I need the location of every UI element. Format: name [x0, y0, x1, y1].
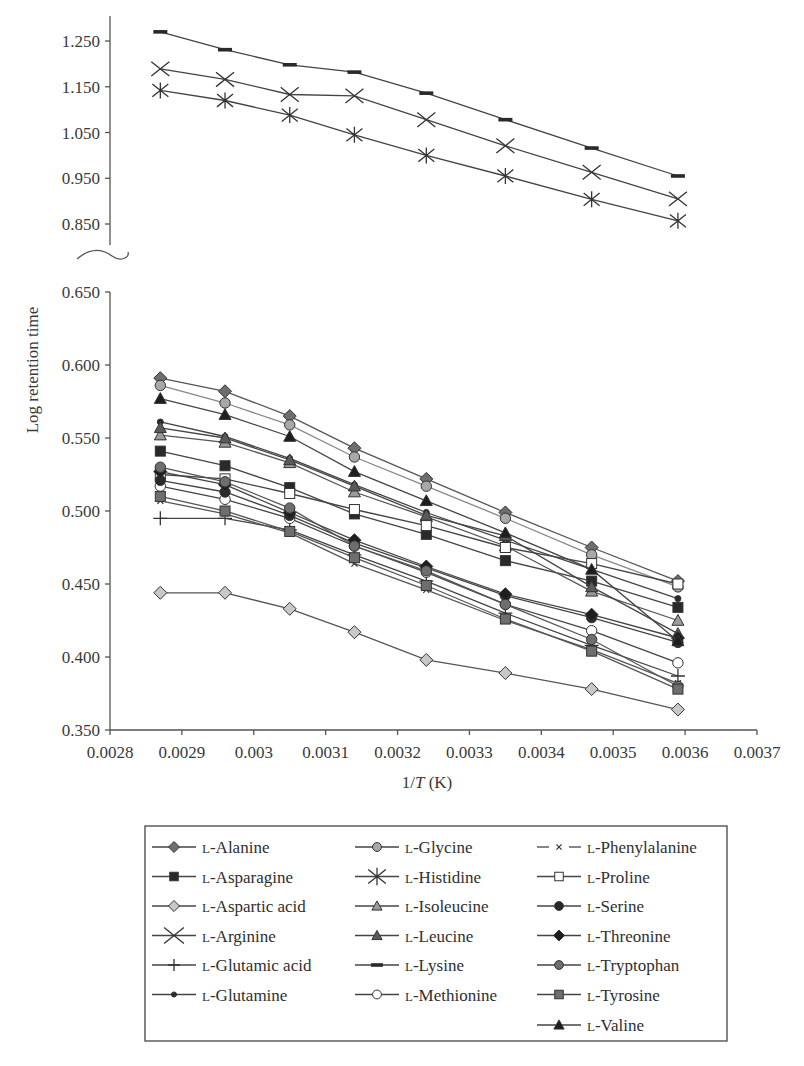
- x-tick-label: 0.0037: [734, 743, 781, 762]
- dash-marker-icon: [347, 70, 361, 74]
- square-marker-icon: [155, 491, 165, 501]
- circle-marker-icon: [373, 990, 382, 999]
- square-marker-icon: [285, 488, 295, 498]
- square-marker-icon: [673, 602, 683, 612]
- circle-marker-icon: [500, 513, 510, 523]
- triangle-marker-icon: [284, 454, 296, 465]
- upper-y-tick-label: 0.950: [62, 169, 100, 188]
- y-axis-title: Log retention time: [23, 307, 42, 434]
- triangle-marker-icon: [672, 615, 684, 626]
- dash-marker-icon: [498, 118, 512, 122]
- series-line: [160, 496, 678, 689]
- x-marker-icon: [216, 72, 234, 86]
- diamond-marker-icon: [348, 626, 361, 639]
- diamond-marker-icon: [420, 653, 433, 666]
- triangle-marker-icon: [348, 480, 360, 491]
- circle-marker-icon: [421, 566, 431, 576]
- circle-marker-icon: [555, 961, 564, 970]
- triangle-marker-icon: [348, 466, 360, 477]
- square-marker-icon: [170, 872, 179, 881]
- legend-label: L-Leucine: [405, 927, 473, 946]
- x-tick-label: 0.0031: [302, 743, 349, 762]
- square-marker-icon: [500, 543, 510, 553]
- asterisk-marker-icon: [217, 92, 233, 108]
- series-line: [160, 480, 678, 642]
- legend-label: L-Histidine: [405, 868, 481, 887]
- x-marker-icon: [669, 192, 687, 206]
- axis-break-icon: [77, 250, 128, 259]
- lower-y-tick-label: 0.450: [62, 575, 100, 594]
- series-line: [160, 90, 678, 220]
- legend-label: L-Glutamine: [202, 986, 287, 1005]
- legend-label: L-Tryptophan: [587, 956, 680, 975]
- square-marker-icon: [421, 580, 431, 590]
- series-line: [160, 593, 678, 710]
- lower-y-tick-label: 0.400: [62, 648, 100, 667]
- x-tick-label: 0.0035: [590, 743, 637, 762]
- x-axis: 0.00280.00290.0030.00310.00320.00330.003…: [87, 730, 781, 762]
- square-marker-icon: [555, 872, 564, 881]
- lower-panel: 0.6500.6000.5500.5000.4500.4000.350: [62, 283, 685, 740]
- diamond-marker-icon: [499, 667, 512, 680]
- circle-marker-icon: [586, 634, 596, 644]
- square-marker-icon: [421, 521, 431, 531]
- square-marker-icon: [673, 579, 683, 589]
- series-isoleucine: [154, 429, 684, 625]
- legend-label: L-Lysine: [405, 956, 464, 975]
- circle-marker-icon: [349, 541, 359, 551]
- dash-marker-icon: [283, 63, 297, 67]
- x-marker-icon: [496, 139, 514, 153]
- circle-marker-icon: [373, 843, 382, 852]
- square-marker-icon: [587, 646, 597, 656]
- circle-marker-icon: [673, 658, 683, 668]
- circle-marker-icon: [555, 902, 564, 911]
- retention-time-chart: 1.2501.1501.0500.9500.850 0.6500.6000.55…: [0, 0, 804, 1066]
- asterisk-marker-icon: [282, 107, 298, 123]
- x-tick-label: 0.0029: [159, 743, 206, 762]
- asterisk-marker-icon: [497, 168, 513, 184]
- lower-y-tick-label: 0.550: [62, 429, 100, 448]
- series-alanine: [154, 372, 685, 588]
- upper-y-tick-label: 1.250: [62, 32, 100, 51]
- circle-marker-icon: [421, 481, 431, 491]
- diamond-marker-icon: [585, 683, 598, 696]
- diamond-marker-icon: [219, 385, 232, 398]
- legend-label: L-Alanine: [202, 838, 269, 857]
- x-marker-icon: [583, 165, 601, 179]
- lower-y-tick-label: 0.600: [62, 356, 100, 375]
- dash-marker-icon: [218, 48, 232, 52]
- series-line: [160, 451, 678, 607]
- square-marker-icon: [349, 553, 359, 563]
- square-marker-icon: [349, 505, 359, 515]
- dash-marker-icon: [419, 91, 433, 95]
- asterisk-marker-icon: [346, 127, 362, 143]
- x-marker-icon: [417, 112, 435, 126]
- square-marker-icon: [220, 461, 230, 471]
- series-threonine: [154, 465, 685, 644]
- circle-marker-icon: [155, 462, 165, 472]
- plus-marker-icon: [153, 511, 167, 525]
- upper-y-tick-label: 0.850: [62, 215, 100, 234]
- series-serine: [155, 475, 683, 647]
- triangle-marker-icon: [420, 495, 432, 506]
- square-marker-icon: [285, 526, 295, 536]
- asterisk-marker-icon: [584, 191, 600, 207]
- circle-marker-icon: [500, 599, 510, 609]
- upper-y-tick-label: 1.150: [62, 78, 100, 97]
- series-proline: [155, 470, 683, 590]
- asterisk-marker-icon: [152, 82, 168, 98]
- series-line: [160, 399, 678, 641]
- square-marker-icon: [500, 614, 510, 624]
- lower-y-tick-label: 0.650: [62, 283, 100, 302]
- legend-label: L-Glutamic acid: [202, 956, 312, 975]
- triangle-marker-icon: [284, 431, 296, 442]
- lower-y-tick-label: 0.500: [62, 502, 100, 521]
- square-marker-icon: [673, 684, 683, 694]
- series-line: [160, 378, 678, 581]
- diamond-marker-icon: [283, 602, 296, 615]
- diamond-marker-icon: [154, 586, 167, 599]
- square-marker-icon: [220, 506, 230, 516]
- series-lysine: [153, 30, 685, 178]
- square-marker-icon: [555, 990, 564, 999]
- x-axis-title: 1/T (K): [402, 773, 453, 792]
